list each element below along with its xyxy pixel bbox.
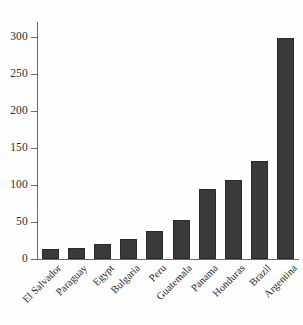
bar <box>42 249 59 259</box>
bar <box>146 231 163 259</box>
x-axis-label: El Salvador <box>21 263 63 305</box>
bar <box>94 244 111 259</box>
bar <box>251 161 268 259</box>
bar <box>277 38 294 259</box>
bar <box>199 189 216 259</box>
bar-chart: 050100150200250300 El SalvadorParaguayEg… <box>0 0 303 325</box>
bar <box>68 248 85 259</box>
x-axis-label: Peru <box>147 263 168 284</box>
bar <box>120 239 137 259</box>
bar <box>225 180 242 259</box>
bar <box>173 220 190 259</box>
x-axis-labels: El SalvadorParaguayEgyptBulgariaPeruGuat… <box>0 259 303 325</box>
